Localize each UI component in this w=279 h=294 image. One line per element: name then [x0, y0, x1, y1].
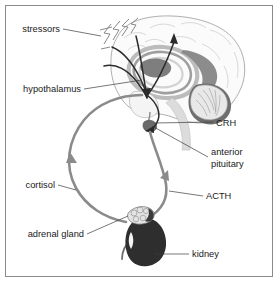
hpa-axis-diagram: stressors hypothalamus cortisol adrenal …: [0, 0, 279, 294]
label-anterior-pituitary-line2: pituitary: [211, 159, 244, 169]
label-anterior-pituitary-line1: anterior: [211, 147, 243, 157]
cortisol-arrowhead: [66, 152, 77, 163]
label-cortisol: cortisol: [26, 180, 55, 190]
label-acth: ACTH: [206, 191, 231, 201]
leader-acth: [169, 191, 203, 196]
label-adrenal-gland: adrenal gland: [28, 229, 84, 239]
leader-anterior-pituitary: [152, 126, 208, 157]
label-hypothalamus: hypothalamus: [23, 84, 81, 94]
leader-cortisol: [58, 185, 76, 190]
kidney-illustration: [122, 218, 166, 266]
leader-adrenal-gland: [87, 216, 128, 234]
label-stressors: stressors: [22, 24, 60, 34]
figure-root: stressors hypothalamus cortisol adrenal …: [0, 0, 279, 294]
adrenal-gland-illustration: [128, 207, 155, 225]
brain-illustration: [111, 16, 245, 150]
leader-stressors: [63, 29, 101, 36]
label-crh: CRH: [216, 118, 236, 128]
acth-arrowhead: [160, 170, 169, 181]
label-kidney: kidney: [192, 249, 219, 259]
cortisol-pathway: [69, 95, 142, 222]
